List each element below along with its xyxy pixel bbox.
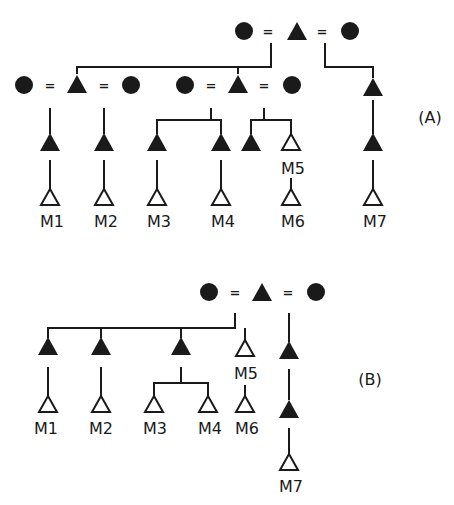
individual-label-m4: M4 [198, 419, 222, 438]
descent-line [77, 43, 271, 74]
descent-line [48, 313, 245, 340]
female-symbol [15, 76, 33, 94]
male-symbol-filled [228, 75, 248, 93]
individual-label-m1: M1 [40, 212, 64, 231]
marriage-sign: = [206, 78, 217, 93]
individual-label-m5: M5 [234, 364, 258, 383]
male-symbol-open [282, 189, 300, 205]
female-symbol [235, 22, 253, 40]
male-symbol-open [95, 189, 113, 205]
male-symbol-filled [94, 133, 114, 151]
female-symbol [122, 76, 140, 94]
male-symbol-filled [38, 337, 58, 355]
male-symbol-open [39, 396, 57, 412]
marriage-sign: = [283, 285, 294, 300]
individual-label-m1: M1 [34, 419, 58, 438]
female-symbol [307, 283, 325, 301]
panel-a: = = = = = = M5 [15, 22, 442, 231]
male-symbol-filled [67, 75, 87, 93]
descent-line [154, 367, 208, 398]
male-symbol-filled [363, 78, 383, 96]
individual-label-m7: M7 [279, 477, 303, 496]
marriage-sign: = [263, 24, 274, 39]
marriage-sign: = [45, 78, 56, 93]
male-symbol-filled [171, 337, 191, 355]
male-symbol-open [236, 340, 254, 356]
female-symbol [283, 76, 301, 94]
marriage-sign: = [99, 78, 110, 93]
marriage-sign: = [230, 285, 241, 300]
panel-label-b: (B) [358, 370, 381, 389]
male-symbol-filled [211, 133, 231, 151]
individual-label-m3: M3 [147, 212, 171, 231]
male-symbol-filled [279, 400, 299, 418]
male-symbol-open [41, 189, 59, 205]
marriage-sign: = [259, 78, 270, 93]
male-symbol-open [148, 189, 166, 205]
male-symbol-open [282, 134, 300, 150]
male-symbol-open [212, 189, 230, 205]
female-symbol [200, 283, 218, 301]
male-symbol-filled [147, 133, 167, 151]
individual-label-m6: M6 [235, 419, 259, 438]
kinship-diagram: = = = = = = M5 [0, 0, 454, 505]
male-symbol-open [364, 189, 382, 205]
male-symbol-filled [241, 133, 261, 151]
individual-label-m3: M3 [143, 419, 167, 438]
individual-label-m2: M2 [89, 419, 113, 438]
male-symbol-filled [91, 337, 111, 355]
male-symbol-open [145, 396, 163, 412]
female-symbol [176, 76, 194, 94]
male-symbol-filled [279, 341, 299, 359]
male-symbol-filled [252, 283, 272, 301]
individual-label-m2: M2 [94, 212, 118, 231]
descent-line [251, 108, 291, 134]
marriage-sign: = [317, 24, 328, 39]
male-symbol-open [92, 396, 110, 412]
individual-label-m5: M5 [281, 159, 305, 178]
male-symbol-open [280, 454, 298, 470]
descent-line [157, 108, 221, 134]
panel-b: = = M5 (B) M1 M2 M3 M4 M6 M7 [34, 283, 382, 496]
individual-label-m7: M7 [363, 212, 387, 231]
individual-label-m4: M4 [211, 212, 235, 231]
male-symbol-filled [287, 22, 307, 40]
individual-label-m6: M6 [281, 212, 305, 231]
male-symbol-filled [40, 133, 60, 151]
male-symbol-open [199, 396, 217, 412]
female-symbol [341, 22, 359, 40]
male-symbol-open [236, 396, 254, 412]
descent-line [325, 43, 373, 78]
male-symbol-filled [363, 133, 383, 151]
panel-label-a: (A) [418, 108, 441, 127]
